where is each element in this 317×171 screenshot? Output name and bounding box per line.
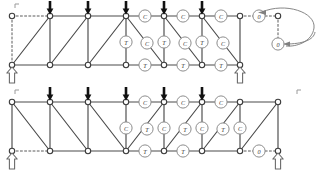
upper-truss-diagonal-1	[50, 16, 88, 65]
upper-truss-bottom-joint-1[interactable]	[47, 62, 52, 67]
lower-truss-force-label-top-1: C	[139, 96, 151, 108]
lower-truss-bottom-joint-2[interactable]	[85, 148, 90, 153]
upper-truss-bottom-joint-4[interactable]	[161, 62, 166, 67]
lower-truss-diagonal-0	[12, 102, 50, 151]
lower-truss-force-label-mid-4: C	[196, 122, 208, 134]
lower-truss-load-arrow-2	[85, 87, 92, 101]
upper-truss-force-label-bot-1: T	[139, 59, 151, 71]
upper-truss-bottom-joint-5[interactable]	[199, 62, 204, 67]
upper-truss-bottom-joint-2[interactable]	[85, 62, 90, 67]
zero-force-callout-group	[258, 8, 315, 46]
upper-truss-force-label-mid-6: C	[217, 37, 229, 49]
lower-truss-force-label-mid-1: T	[141, 123, 153, 135]
lower-truss-support-left	[7, 153, 17, 169]
lower-truss-force-label-mid-5: T	[217, 123, 229, 135]
truss-diagram-figure: CCC0TCTCTC0TTTCCCCTCTCTCTT0	[0, 0, 317, 171]
diagram-canvas: CCC0TCTCTC0TTTCCCCTCTCTCTT0	[0, 0, 317, 171]
upper-truss-force-label-top-3: C	[215, 10, 227, 22]
lower-truss-force-label-mid-0: C	[120, 122, 132, 134]
upper-truss-bottom-joint-3[interactable]	[123, 62, 128, 67]
upper-truss-force-label-mid-2: C	[141, 37, 153, 49]
callout-curve-upper	[262, 8, 314, 46]
upper-truss-force-label-mid-4: C	[179, 37, 191, 49]
lower-truss-force-label-mid-3: T	[179, 123, 191, 135]
lower-truss-force-label-mid-6: C	[234, 122, 246, 134]
lower-truss-load-arrow-1	[47, 87, 54, 101]
upper-truss-load-arrow-2	[85, 1, 92, 15]
lower-truss-corner-mark-left	[15, 90, 19, 94]
upper-truss-load-arrow-5	[199, 1, 206, 15]
lower-truss-force-label-top-3: C	[215, 96, 227, 108]
lower-truss-support-right	[273, 153, 283, 169]
upper-truss-top-joint-0[interactable]	[9, 13, 14, 18]
upper-truss-force-label-mid-1: T	[120, 36, 132, 48]
lower-truss-bottom-joint-6[interactable]	[237, 148, 242, 153]
upper-truss-support-left	[7, 67, 17, 83]
lower-truss-top-joint-7[interactable]	[275, 99, 280, 104]
upper-truss-force-label-mid-7: 0	[272, 38, 284, 50]
lower-truss-force-label-bot-3: 0	[253, 145, 265, 157]
lower-truss-bottom-joint-1[interactable]	[47, 148, 52, 153]
upper-truss-force-label-top-2: C	[177, 10, 189, 22]
upper-truss-top-joint-6[interactable]	[237, 13, 242, 18]
upper-truss-corner-mark-left	[15, 4, 19, 8]
lower-truss-bottom-joint-4[interactable]	[161, 148, 166, 153]
upper-truss-force-label-bot-2: T	[177, 59, 189, 71]
upper-truss-diagonal-0	[12, 16, 50, 65]
lower-truss-load-arrow-3	[123, 87, 130, 101]
lower-truss-force-label-bot-2: T	[177, 145, 189, 157]
lower-truss-force-label-top-2: C	[177, 96, 189, 108]
upper-truss-top-joint-7[interactable]	[275, 13, 280, 18]
lower-truss-corner-mark-right	[297, 90, 301, 94]
lower-truss-top-joint-0[interactable]	[9, 99, 14, 104]
lower-truss-bottom-joint-5[interactable]	[199, 148, 204, 153]
lower-truss-top-joint-6[interactable]	[237, 99, 242, 104]
lower-truss-force-label-bot-1: T	[139, 145, 151, 157]
upper-truss-load-arrow-1	[47, 1, 54, 15]
lower-truss-force-label-mid-2: C	[158, 122, 170, 134]
upper-truss-load-arrow-4	[161, 1, 168, 15]
upper-truss-force-label-top-1: C	[139, 10, 151, 22]
upper-truss-support-right	[235, 67, 245, 83]
lower-truss-load-arrow-4	[161, 87, 168, 101]
upper-truss-force-label-mid-3: T	[158, 36, 170, 48]
lower-truss-load-arrow-5	[199, 87, 206, 101]
upper-truss-load-arrow-3	[123, 1, 130, 15]
callout-curve-lower	[286, 32, 315, 44]
upper-truss-force-label-bot-3: T	[215, 59, 227, 71]
upper-truss-force-label-mid-5: T	[196, 36, 208, 48]
lower-truss-bottom-joint-3[interactable]	[123, 148, 128, 153]
lower-truss-diagonal-1	[50, 102, 88, 151]
